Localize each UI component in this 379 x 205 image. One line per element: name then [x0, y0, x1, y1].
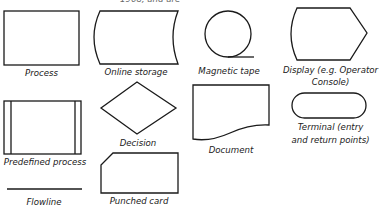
document-label: Document	[193, 145, 269, 156]
magnetic-tape-label: Magnetic tape	[192, 66, 266, 77]
terminal-label-line2: and return points)	[282, 135, 379, 146]
magnetic-tape-symbol	[205, 11, 254, 57]
terminal-label-line1: Terminal (entry	[282, 122, 379, 133]
predefined-process-symbol	[4, 101, 81, 154]
flowline-label: Flowline	[4, 197, 84, 205]
display-symbol	[291, 8, 367, 60]
punched-card-symbol	[101, 153, 178, 193]
decision-label: Decision	[100, 138, 176, 149]
process-symbol	[4, 11, 79, 65]
display-label-line1: Display (e.g. Operator	[282, 65, 379, 76]
process-label: Process	[4, 68, 79, 79]
flowchart-symbols-diagram	[0, 0, 379, 205]
online-storage-symbol	[94, 11, 178, 64]
terminal-symbol	[292, 93, 366, 118]
document-symbol	[193, 85, 269, 140]
display-label-line2: Console)	[282, 77, 379, 88]
predefined-process-label: Predefined process	[0, 157, 90, 168]
punched-card-label: Punched card	[96, 196, 182, 205]
online-storage-label: Online storage	[88, 67, 184, 78]
decision-symbol	[101, 82, 176, 134]
